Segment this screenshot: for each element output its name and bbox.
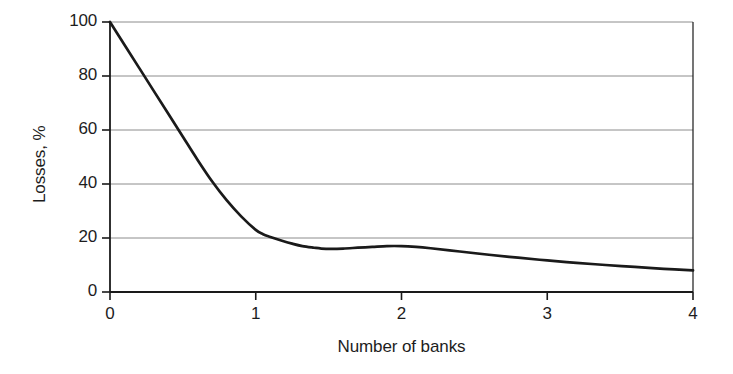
y-tick-label-100: 100 (69, 11, 97, 31)
y-tick-label-40: 40 (78, 173, 97, 193)
axis-ticks-group (102, 22, 693, 300)
x-tick-label-4: 4 (673, 304, 713, 324)
x-tick-label-1: 1 (236, 304, 276, 324)
y-tick-label-20: 20 (78, 227, 97, 247)
x-axis-title: Number of banks (50, 337, 733, 357)
gridlines-group (110, 22, 693, 292)
y-tick-label-80: 80 (78, 65, 97, 85)
x-tick-label-0: 0 (90, 304, 130, 324)
chart-figure: Losses, % Number of banks 020406080100 0… (0, 0, 733, 374)
y-axis-title: Losses, % (30, 125, 50, 203)
data-line-0 (110, 22, 693, 270)
x-tick-label-2: 2 (382, 304, 422, 324)
y-tick-label-60: 60 (78, 119, 97, 139)
data-series-group (110, 22, 693, 270)
x-tick-label-3: 3 (527, 304, 567, 324)
axis-lines-group (110, 22, 693, 292)
y-tick-label-0: 0 (88, 281, 97, 301)
